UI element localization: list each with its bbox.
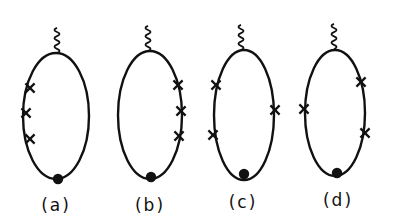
diagram-d: (d) — [299, 24, 369, 210]
fermion-loop — [305, 50, 365, 176]
diagram-c: (c) — [208, 25, 279, 212]
feynman-diagram-figure: (a)(b)(c)(d) — [0, 0, 393, 220]
cross-insertion — [25, 134, 34, 143]
fermion-loop — [118, 51, 182, 179]
fermion-loop — [23, 53, 89, 179]
diagram-label: (d) — [323, 190, 353, 210]
vertex-dot — [146, 172, 156, 182]
photon-line — [238, 25, 243, 50]
vertex-dot — [239, 169, 249, 179]
photon-line — [145, 26, 150, 51]
vertex-dot — [332, 168, 342, 178]
diagram-label: (c) — [229, 192, 258, 212]
photon-line — [54, 28, 59, 53]
fermion-loop — [214, 50, 274, 180]
photon-line — [331, 24, 336, 49]
vertex-dot — [53, 174, 63, 184]
diagram-label: (a) — [41, 195, 71, 215]
diagram-b: (b) — [118, 26, 186, 215]
diagram-a: (a) — [21, 28, 89, 215]
diagram-label: (b) — [135, 195, 165, 215]
